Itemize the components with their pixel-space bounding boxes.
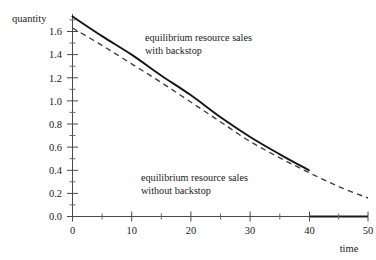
y-tick-label: 0.6: [49, 142, 62, 153]
y-tick-label: 1.0: [49, 96, 62, 107]
annotation-with-backstop-line1: equilibrium resource sales: [145, 32, 252, 43]
annotation-without-backstop-line1: equilibrium resource sales: [141, 172, 248, 183]
y-tick-label: 1.4: [49, 49, 63, 60]
x-tick-label: 50: [363, 225, 374, 236]
y-tick-label: 1.6: [49, 26, 62, 37]
y-tick-label: 0.2: [49, 188, 62, 199]
x-axis-tick-labels: 0 10 20 30 40 50: [70, 225, 373, 236]
y-axis-label: quantity: [12, 13, 47, 24]
y-axis-tick-labels: 0.0 0.2 0.4 0.6 0.8 1.0 1.2 1.4 1.6: [49, 26, 63, 222]
y-tick-label: 0.4: [49, 165, 63, 176]
y-tick-label: 0.0: [49, 211, 62, 222]
x-tick-label: 20: [186, 225, 197, 236]
y-tick-label: 1.2: [49, 73, 62, 84]
x-tick-label: 40: [304, 225, 315, 236]
y-tick-label: 0.8: [49, 119, 62, 130]
x-tick-label: 10: [126, 225, 137, 236]
x-axis-label: time: [340, 243, 359, 254]
x-tick-label: 0: [70, 225, 75, 236]
annotation-with-backstop-line2: with backstop: [145, 45, 202, 56]
resource-sales-line-chart: quantity 0.0: [0, 0, 376, 260]
x-tick-label: 30: [245, 225, 256, 236]
chart-figure: quantity 0.0: [0, 0, 376, 260]
annotation-without-backstop: equilibrium resource sales without backs…: [141, 172, 248, 196]
annotation-with-backstop: equilibrium resource sales with backstop: [145, 32, 252, 56]
annotation-without-backstop-line2: without backstop: [141, 185, 211, 196]
